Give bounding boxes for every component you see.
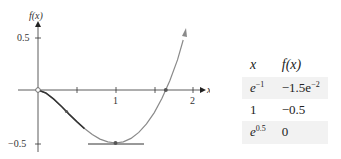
cell-fx: 0 <box>282 124 289 139</box>
x-tick-label-2: 2 <box>190 95 195 106</box>
x-axis-arrow-icon <box>200 87 206 93</box>
cell-x-exp: −1 <box>256 80 265 89</box>
cell-fx: −0.5 <box>282 102 306 117</box>
cell-fx: −1.5e <box>282 80 311 95</box>
y-tick-label-neg: −0.5 <box>8 138 26 149</box>
curve-arrow-icon <box>182 28 187 37</box>
point-e-inverse <box>65 110 68 113</box>
x-axis-label: x <box>206 84 210 95</box>
values-table: x f(x) e−1 −1.5e−2 1 −0.5 e0.5 0 <box>242 55 328 144</box>
y-tick-label-pos: 0.5 <box>17 32 30 43</box>
function-plot: x f(x) 1 2 0.5 −0.5 <box>0 0 210 159</box>
point-root <box>164 88 168 92</box>
cell-x-exp: 0.5 <box>256 124 266 133</box>
table-row: e−1 −1.5e−2 <box>242 77 328 99</box>
x-tick-label-1: 1 <box>113 95 118 106</box>
table-row: 1 −0.5 <box>242 99 328 121</box>
y-axis-arrow-icon <box>35 21 41 27</box>
y-axis-label: f(x) <box>29 10 44 22</box>
open-point-origin <box>36 88 41 93</box>
table-row: e0.5 0 <box>242 121 328 143</box>
header-x: x <box>242 55 274 77</box>
cell-x-base: 1 <box>250 102 257 117</box>
function-curve <box>38 40 183 143</box>
point-minimum <box>114 141 118 145</box>
highlighted-segment <box>38 90 85 129</box>
cell-fx-exp: −2 <box>311 80 320 89</box>
header-fx: f(x) <box>274 55 328 77</box>
